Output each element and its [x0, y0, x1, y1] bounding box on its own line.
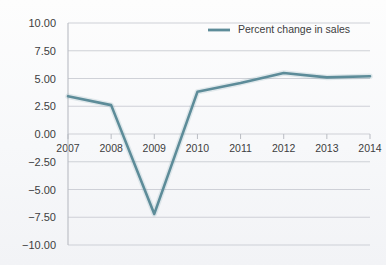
x-axis-tick-label: 2012	[272, 142, 296, 154]
chart-container: 10.007.505.002.500.00−2.50−5.00−7.50−10.…	[0, 0, 386, 265]
x-axis-tick-marks	[68, 134, 370, 139]
y-axis-tick-label: 0.00	[35, 128, 56, 140]
y-axis-tick-labels: 10.007.505.002.500.00−2.50−5.00−7.50−10.…	[22, 17, 56, 251]
y-axis-tick-label: 7.50	[35, 45, 56, 57]
x-axis-tick-label: 2008	[99, 142, 123, 154]
x-axis-tick-label: 2013	[315, 142, 339, 154]
x-axis-tick-label: 2011	[229, 142, 252, 154]
y-axis-tick-label: 10.00	[28, 17, 56, 29]
x-axis-tick-label: 2009	[143, 142, 167, 154]
x-axis-tick-label: 2010	[186, 142, 210, 154]
y-axis-tick-label: −5.00	[28, 184, 56, 196]
y-axis-tick-label: −7.50	[28, 211, 56, 223]
legend-label: Percent change in sales	[238, 23, 350, 35]
y-axis-tick-label: 5.00	[35, 73, 56, 85]
y-axis-tick-label: −10.00	[22, 239, 56, 251]
y-axis-tick-label: −2.50	[28, 156, 56, 168]
gridlines	[68, 23, 370, 245]
x-axis-tick-label: 2014	[358, 142, 382, 154]
x-axis-tick-labels: 20072008200920102011201220132014	[56, 142, 382, 154]
chart-legend: Percent change in sales	[208, 23, 350, 35]
line-chart: 10.007.505.002.500.00−2.50−5.00−7.50−10.…	[0, 0, 386, 265]
y-axis-tick-label: 2.50	[35, 100, 56, 112]
